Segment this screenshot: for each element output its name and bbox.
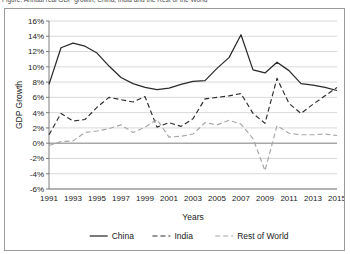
chart-figure: Figure: Annual real GDP growth, China, I…: [0, 0, 350, 254]
x-axis-ticks-group: 1991199319951997199920012003200520072009…: [40, 194, 344, 203]
legend-label-rest-of-world: Rest of World: [237, 231, 289, 241]
x-axis-tick-label: 1997: [112, 194, 130, 203]
x-axis-tick-label: 1999: [136, 194, 154, 203]
x-axis-tick-label: 2013: [304, 194, 322, 203]
x-axis-tick-label: 2009: [256, 194, 274, 203]
y-axis-tick-label: -2%: [30, 154, 44, 163]
gdp-growth-line-chart: 16%14%12%10%8%6%4%2%0%-2%-4%-6% 19911993…: [5, 9, 344, 250]
y-axis-tick-label: -4%: [30, 170, 44, 179]
x-axis-tick-label: 1993: [64, 194, 82, 203]
legend-label-china: China: [112, 231, 134, 241]
x-axis-tick-label: 2011: [280, 194, 298, 203]
y-axis-tick-label: 6%: [32, 93, 44, 102]
figure-caption-text: Figure: Annual real GDP growth, China, I…: [2, 0, 207, 4]
axis-lines-group: [49, 21, 337, 189]
y-axis-tick-label: 16%: [28, 17, 44, 26]
series-line-india: [49, 78, 337, 135]
chart-frame: 16%14%12%10%8%6%4%2%0%-2%-4%-6% 19911993…: [4, 8, 345, 251]
x-axis-tick-label: 2015: [328, 194, 344, 203]
chart-legend: ChinaIndiaRest of World: [90, 231, 289, 241]
x-axis-tick-label: 1991: [40, 194, 58, 203]
y-axis-title: GDP Growth: [14, 81, 24, 129]
y-axis-tick-label: -6%: [30, 185, 44, 194]
figure-caption-cropped: Figure: Annual real GDP growth, China, I…: [0, 0, 350, 7]
y-axis-tick-label: 8%: [32, 78, 44, 87]
x-axis-title: Years: [182, 212, 203, 222]
y-axis-tick-label: 12%: [28, 47, 44, 56]
gridlines-group: [49, 21, 337, 189]
y-axis-tick-label: 10%: [28, 63, 44, 72]
series-lines-group: [49, 35, 337, 171]
y-axis-tick-label: 2%: [32, 124, 44, 133]
y-axis-tick-label: 14%: [28, 32, 44, 41]
y-axis-ticks-group: 16%14%12%10%8%6%4%2%0%-2%-4%-6%: [28, 17, 49, 194]
legend-label-india: India: [174, 231, 193, 241]
x-axis-tick-label: 1995: [88, 194, 106, 203]
series-line-rest-of-world: [49, 120, 337, 171]
x-axis-tick-label: 2001: [160, 194, 178, 203]
x-axis-tick-label: 2007: [232, 194, 250, 203]
x-axis-tick-label: 2005: [208, 194, 226, 203]
x-axis-tick-label: 2003: [184, 194, 202, 203]
y-axis-tick-label: 0%: [32, 139, 44, 148]
y-axis-tick-label: 4%: [32, 109, 44, 118]
